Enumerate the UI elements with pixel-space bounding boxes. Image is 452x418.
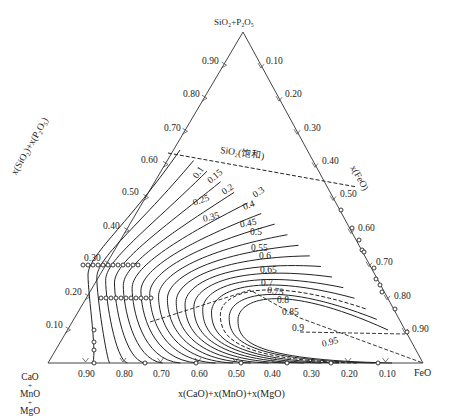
bottom-tick-030: 0.30 <box>303 370 320 380</box>
axis-title-bottom: x(CaO)+x(MnO)+x(MgO) <box>178 389 285 399</box>
vertex-left-label: CaO + MnO + MgO <box>20 372 40 417</box>
contour-label-0.85: 0.85 <box>282 308 299 318</box>
vertex-top-label: SiO₂+P₂O₅ <box>214 18 254 27</box>
triangle-axes <box>48 32 423 363</box>
right-tick-070: 0.70 <box>376 258 393 268</box>
vertex-left-line-5: MgO <box>20 406 40 417</box>
right-tick-060: 0.60 <box>358 224 375 234</box>
bottom-tick-020: 0.20 <box>341 370 358 380</box>
contour-label-0.8: 0.8 <box>277 296 289 306</box>
right-tick-020: 0.20 <box>285 90 302 100</box>
iso-activity-contours <box>88 150 392 363</box>
bottom-tick-090: 0.90 <box>78 370 95 380</box>
contour-label-0.9: 0.9 <box>292 324 304 334</box>
right-tick-050: 0.50 <box>340 190 357 200</box>
contour-label-0.5: 0.5 <box>250 228 262 238</box>
right-tick-080: 0.80 <box>394 292 411 302</box>
right-tick-090: 0.90 <box>412 325 429 335</box>
contour-label-0.6: 0.6 <box>259 252 271 262</box>
contour-label-0.65: 0.65 <box>260 266 277 276</box>
bottom-tick-070: 0.70 <box>153 370 170 380</box>
right-tick-040: 0.40 <box>322 157 339 167</box>
left-tick-040: 0.40 <box>103 222 120 232</box>
left-tick-060: 0.60 <box>141 156 158 166</box>
bottom-tick-040: 0.40 <box>264 370 281 380</box>
bottom-tick-050: 0.50 <box>228 370 245 380</box>
left-tick-030: 0.30 <box>84 254 101 264</box>
left-tick-020: 0.20 <box>65 288 82 298</box>
bottom-tick-010: 0.10 <box>379 370 396 380</box>
bottom-tick-060: 0.60 <box>191 370 208 380</box>
right-tick-010: 0.10 <box>266 57 283 67</box>
left-tick-050: 0.50 <box>122 188 139 198</box>
bottom-tick-080: 0.80 <box>116 370 133 380</box>
left-tick-080: 0.80 <box>183 90 200 100</box>
ternary-diagram: SiO₂+P₂O₅ CaO + MnO + MgO FeO x(SiO₂)+x(… <box>0 0 452 418</box>
vertex-right-label: FeO <box>414 368 431 378</box>
left-tick-090: 0.90 <box>202 57 219 67</box>
ternary-plot-svg <box>0 0 452 418</box>
left-tick-070: 0.70 <box>164 124 181 134</box>
right-tick-030: 0.30 <box>304 124 321 134</box>
left-tick-010: 0.10 <box>46 321 63 331</box>
